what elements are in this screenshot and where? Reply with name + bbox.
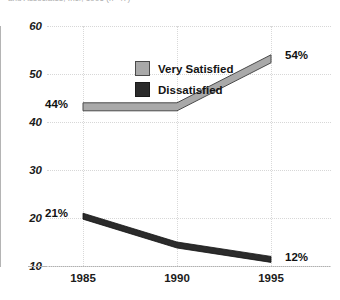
data-label-very-satisfied-1995: 54%: [285, 50, 308, 62]
series-dissatisfied: [83, 213, 271, 262]
x-axis-tick-1995: 1995: [236, 272, 306, 284]
y-axis-line: [0, 26, 1, 267]
y-axis-tick-30: 30: [12, 165, 42, 177]
y-axis-tick-50: 50: [12, 69, 42, 81]
legend-item-dissatisfied[interactable]: Dissatisfied: [135, 79, 247, 100]
legend-item-very-satisfied[interactable]: Very Satisfied: [135, 58, 247, 79]
legend-label-very-satisfied: Very Satisfied: [158, 63, 233, 75]
data-label-dissatisfied-1985: 21%: [45, 208, 68, 220]
y-axis-tick-40: 40: [12, 117, 42, 129]
chart-legend: Very Satisfied Dissatisfied: [135, 56, 247, 102]
legend-swatch-dissatisfied: [135, 82, 150, 97]
legend-label-dissatisfied: Dissatisfied: [158, 84, 223, 96]
x-axis-tick-1985: 1985: [48, 272, 118, 284]
dissatisfied-ribbon: [83, 213, 271, 262]
y-axis-tick-60: 60: [12, 21, 42, 33]
plot-area: 44% 54% 21% 12% Very Satisfied Dissatisf…: [47, 26, 331, 266]
legend-swatch-very-satisfied: [135, 61, 150, 76]
x-axis-tick-1990: 1990: [142, 272, 212, 284]
y-axis-tick-20: 20: [12, 213, 42, 225]
data-label-very-satisfied-1985: 44%: [45, 99, 68, 111]
chart-container: and Associates, Inc., 1996 (n=47) 60 50 …: [0, 0, 340, 300]
gridline-h-10: [47, 266, 331, 267]
y-axis-labels: 60 50 40 30 20 10: [8, 0, 42, 300]
data-label-dissatisfied-1995: 12%: [285, 252, 308, 264]
